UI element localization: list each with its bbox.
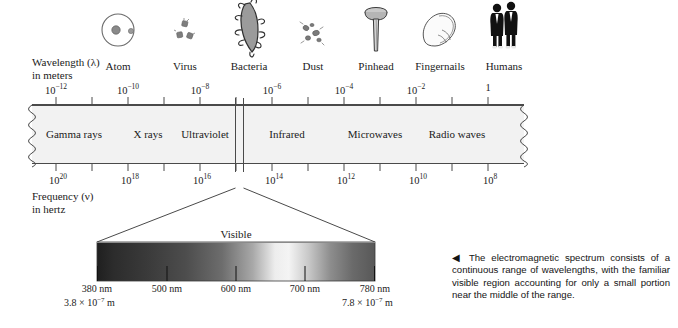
wavelength-tick-exp: −6 xyxy=(273,82,281,91)
frequency-tick-exp: 20 xyxy=(60,172,68,181)
wavelength-tick-label: 10−2 xyxy=(396,82,436,96)
electromagnetic-spectrum-figure: Wavelength (λ) in meters 10−12 10−10 10−… xyxy=(0,0,678,328)
region-label-infrared: Infrared xyxy=(249,128,325,140)
frequency-axis-label-line1: Frequency (ν) xyxy=(32,190,93,203)
visible-tick-label-600: 600 nm xyxy=(201,283,271,294)
frequency-tick-label: 108 xyxy=(470,172,510,186)
wavelength-tick-label: 10−4 xyxy=(324,82,364,96)
frequency-tick-exp: 10 xyxy=(420,172,428,181)
frequency-tick-label: 1012 xyxy=(326,172,366,186)
visible-meters-mantissa-380: 3.8 xyxy=(64,297,77,308)
wavelength-tick-exp: −8 xyxy=(201,82,209,91)
specimen-label-humans: Humans xyxy=(468,60,540,72)
specimen-label-fingernails: Fingernails xyxy=(404,60,476,72)
humans-icon xyxy=(490,2,517,49)
wavelength-tick-exp: −2 xyxy=(417,82,425,91)
wavelength-tick-exp: −4 xyxy=(345,82,353,91)
virus-icon xyxy=(174,18,195,39)
frequency-tick-label: 1014 xyxy=(254,172,294,186)
bacteria-icon xyxy=(235,0,265,57)
fingernail-icon xyxy=(423,13,455,46)
frequency-tick-exp: 18 xyxy=(132,172,140,181)
atom-icon xyxy=(102,14,134,46)
wavelength-tick-label: 10−6 xyxy=(252,82,292,96)
region-label-radio-waves: Radio waves xyxy=(415,128,499,140)
frequency-axis-label-line2: in hertz xyxy=(32,203,93,216)
pinhead-icon xyxy=(365,8,387,52)
frequency-tick-label: 1010 xyxy=(398,172,438,186)
wavelength-tick-exp: −10 xyxy=(127,82,139,91)
meters-unit: m xyxy=(107,297,115,308)
figure-caption: ◀ The electromagnetic spectrum consists … xyxy=(452,252,670,302)
base-10: 10 xyxy=(87,297,97,308)
dust-icon xyxy=(300,22,324,45)
region-label-gamma-rays: Gamma rays xyxy=(34,128,114,140)
visible-tick-label-500: 500 nm xyxy=(132,283,202,294)
wavelength-tick-label: 1 xyxy=(468,82,508,93)
visible-meters-label-380: 3.8 × 10−7 m xyxy=(64,296,115,308)
visible-tick-label-780: 780 nm xyxy=(340,283,410,294)
frequency-axis-label: Frequency (ν) in hertz xyxy=(32,190,93,215)
wavelength-tick-label: 10−12 xyxy=(36,82,76,96)
frequency-tick-exp: 12 xyxy=(348,172,356,181)
specimen-label-dust: Dust xyxy=(277,60,349,72)
specimen-label-virus: Virus xyxy=(149,60,221,72)
times-symbol: × xyxy=(357,297,363,308)
wavelength-tick-label: 10−8 xyxy=(180,82,220,96)
specimen-label-bacteria: Bacteria xyxy=(213,60,285,72)
frequency-tick-exp: 16 xyxy=(204,172,212,181)
wavelength-tick-label: 10−10 xyxy=(108,82,148,96)
visible-meters-exp-780: −7 xyxy=(375,296,382,304)
visible-meters-exp-380: −7 xyxy=(97,296,104,304)
specimen-label-pinhead: Pinhead xyxy=(340,60,412,72)
visible-meters-mantissa-780: 7.8 xyxy=(342,297,355,308)
base-10: 10 xyxy=(365,297,375,308)
visible-spectrum-bar xyxy=(97,242,375,281)
frequency-axis-ticks xyxy=(56,164,488,171)
visible-panel-title: Visible xyxy=(176,228,296,240)
frequency-tick-label: 1016 xyxy=(182,172,222,186)
frequency-tick-label: 1018 xyxy=(110,172,150,186)
visible-tick-label-380: 380 nm xyxy=(62,283,132,294)
region-label-microwaves: Microwaves xyxy=(335,128,415,140)
wavelength-axis-ticks xyxy=(56,97,488,104)
specimen-label-atom: Atom xyxy=(82,60,154,72)
frequency-tick-exp: 14 xyxy=(276,172,284,181)
region-label-ultraviolet: Ultraviolet xyxy=(166,128,244,140)
visible-meters-label-780: 7.8 × 10−7 m xyxy=(342,296,393,308)
meters-unit: m xyxy=(385,297,393,308)
times-symbol: × xyxy=(79,297,85,308)
frequency-tick-label: 1020 xyxy=(38,172,78,186)
visible-tick-label-700: 700 nm xyxy=(270,283,340,294)
frequency-tick-exp: 8 xyxy=(493,172,497,181)
wavelength-tick-exp: −12 xyxy=(55,82,67,91)
